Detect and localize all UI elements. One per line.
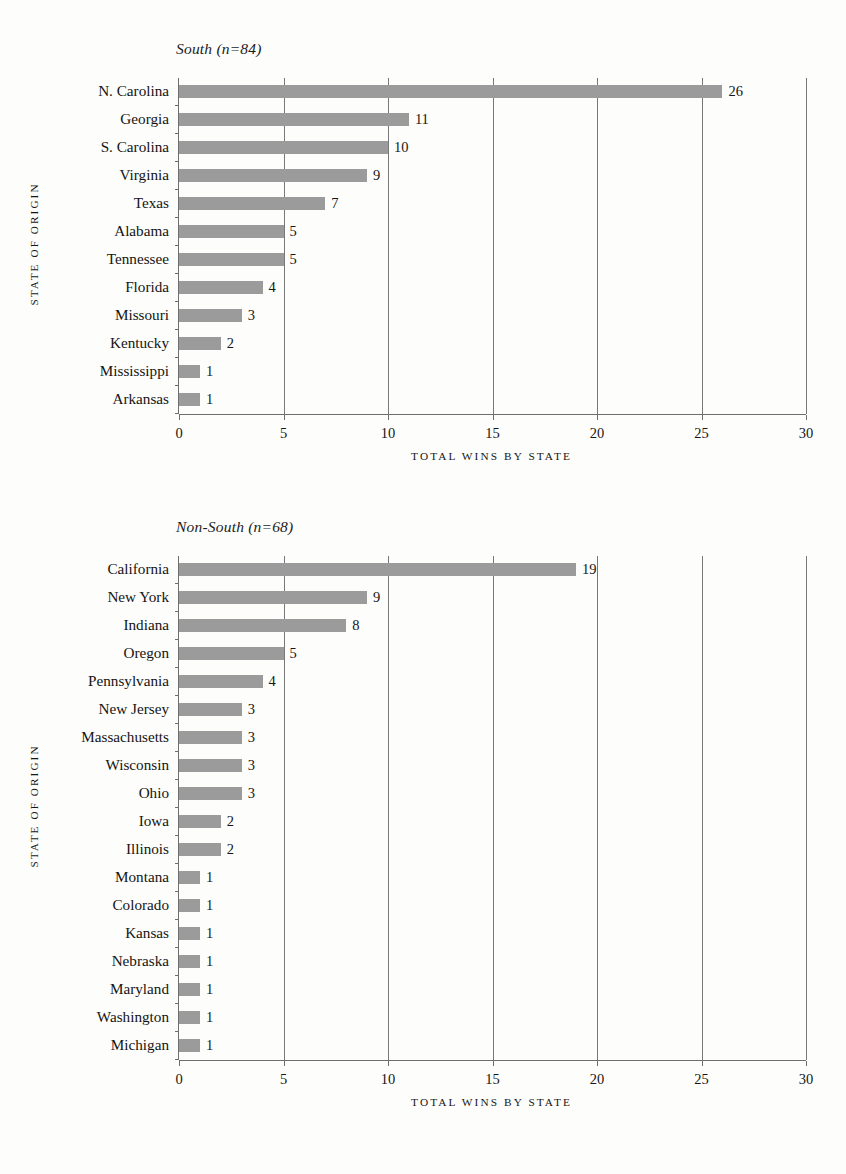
- bar: [179, 197, 325, 210]
- category-label: Wisconsin: [105, 755, 169, 775]
- bar: [179, 759, 242, 772]
- category-label: Colorado: [112, 895, 169, 915]
- x-axis-title-south: TOTAL WINS BY STATE: [178, 450, 805, 462]
- bar-value-label: 2: [227, 812, 234, 830]
- category-label: Tennessee: [107, 249, 169, 269]
- x-axis-tick-mark: [388, 415, 389, 420]
- x-axis-tick-mark: [388, 1061, 389, 1066]
- bar-row: Kansas1: [179, 920, 806, 948]
- bar-row: Texas7: [179, 190, 806, 218]
- bar: [179, 675, 263, 688]
- bar-row: S. Carolina10: [179, 134, 806, 162]
- bar-value-label: 3: [248, 756, 255, 774]
- bar-row: Michigan1: [179, 1032, 806, 1060]
- category-label: Maryland: [110, 979, 169, 999]
- category-label: Illinois: [126, 839, 169, 859]
- bar-value-label: 4: [269, 672, 276, 690]
- bar: [179, 253, 284, 266]
- figure-page: South (n=84) STATE OF ORIGIN N. Carolina…: [0, 0, 846, 1174]
- bar: [179, 899, 200, 912]
- bar-value-label: 11: [415, 110, 429, 128]
- bar-value-label: 10: [394, 138, 409, 156]
- category-label: Washington: [97, 1007, 169, 1027]
- bar-rows-nonsouth: California19New York9Indiana8Oregon5Penn…: [179, 556, 806, 1060]
- category-label: Pennsylvania: [88, 671, 169, 691]
- x-axis-tick-label: 5: [280, 1071, 287, 1088]
- x-axis-tick-label: 25: [694, 1071, 709, 1088]
- bar-row: Illinois2: [179, 836, 806, 864]
- bar-row: Florida4: [179, 274, 806, 302]
- bar-value-label: 3: [248, 728, 255, 746]
- x-axis-tick-mark: [179, 415, 180, 420]
- bar-row: Missouri3: [179, 302, 806, 330]
- category-label: Kansas: [125, 923, 169, 943]
- category-label: Georgia: [120, 109, 169, 129]
- category-label: California: [107, 559, 169, 579]
- bar-row: Washington1: [179, 1004, 806, 1032]
- category-label: Kentucky: [110, 333, 169, 353]
- bar: [179, 647, 284, 660]
- bar-value-label: 1: [206, 924, 213, 942]
- x-axis-title-nonsouth: TOTAL WINS BY STATE: [178, 1096, 805, 1108]
- bar: [179, 393, 200, 406]
- bar-value-label: 1: [206, 896, 213, 914]
- bar: [179, 309, 242, 322]
- bar: [179, 591, 367, 604]
- category-label: Texas: [134, 193, 169, 213]
- x-axis-tick-label: 15: [485, 425, 500, 442]
- bar: [179, 927, 200, 940]
- category-label: Virginia: [120, 165, 169, 185]
- category-label: Ohio: [139, 783, 169, 803]
- bar-value-label: 1: [206, 390, 213, 408]
- bar-value-label: 5: [290, 644, 297, 662]
- x-axis-tick-label: 10: [381, 1071, 396, 1088]
- category-label: New York: [107, 587, 169, 607]
- category-label: N. Carolina: [98, 81, 169, 101]
- x-axis-tick-label: 10: [381, 425, 396, 442]
- category-label: Alabama: [114, 221, 169, 241]
- bar: [179, 731, 242, 744]
- bar-row: Pennsylvania4: [179, 668, 806, 696]
- bar-row: Alabama5: [179, 218, 806, 246]
- x-axis-tick-label: 0: [175, 1071, 182, 1088]
- bar-value-label: 5: [290, 250, 297, 268]
- bar: [179, 703, 242, 716]
- bar-row: New York9: [179, 584, 806, 612]
- category-label: Nebraska: [112, 951, 169, 971]
- plot-area-south: N. Carolina26Georgia11S. Carolina10Virgi…: [178, 78, 806, 414]
- bar-value-label: 19: [582, 560, 597, 578]
- bar: [179, 871, 200, 884]
- category-label: Iowa: [139, 811, 169, 831]
- bar-row: Montana1: [179, 864, 806, 892]
- bar-row: Georgia11: [179, 106, 806, 134]
- y-axis-title-south: STATE OF ORIGIN: [28, 174, 40, 314]
- bar-value-label: 1: [206, 1008, 213, 1026]
- x-axis-tick-mark: [702, 1061, 703, 1066]
- gridline-30: [806, 78, 807, 414]
- x-axis-tick-label: 20: [590, 1071, 605, 1088]
- category-label: Missouri: [115, 305, 169, 325]
- bar-row: Nebraska1: [179, 948, 806, 976]
- category-label: New Jersey: [99, 699, 169, 719]
- category-label: Montana: [115, 867, 169, 887]
- bar: [179, 85, 722, 98]
- category-label: Mississippi: [100, 361, 169, 381]
- x-axis-tick-mark: [597, 1061, 598, 1066]
- bar-row: Mississippi1: [179, 358, 806, 386]
- bar-row: Kentucky2: [179, 330, 806, 358]
- bar: [179, 955, 200, 968]
- bar-row: Arkansas1: [179, 386, 806, 414]
- x-axis-tick-mark: [806, 415, 807, 420]
- bar-value-label: 1: [206, 1036, 213, 1054]
- x-axis-tick-mark: [806, 1061, 807, 1066]
- bar-row: N. Carolina26: [179, 78, 806, 106]
- bar-value-label: 2: [227, 334, 234, 352]
- bar: [179, 1011, 200, 1024]
- bar-row: Indiana8: [179, 612, 806, 640]
- bar: [179, 843, 221, 856]
- bar: [179, 281, 263, 294]
- category-label: Florida: [125, 277, 169, 297]
- bar-value-label: 4: [269, 278, 276, 296]
- category-label: Oregon: [123, 643, 169, 663]
- x-axis-tick-mark: [597, 415, 598, 420]
